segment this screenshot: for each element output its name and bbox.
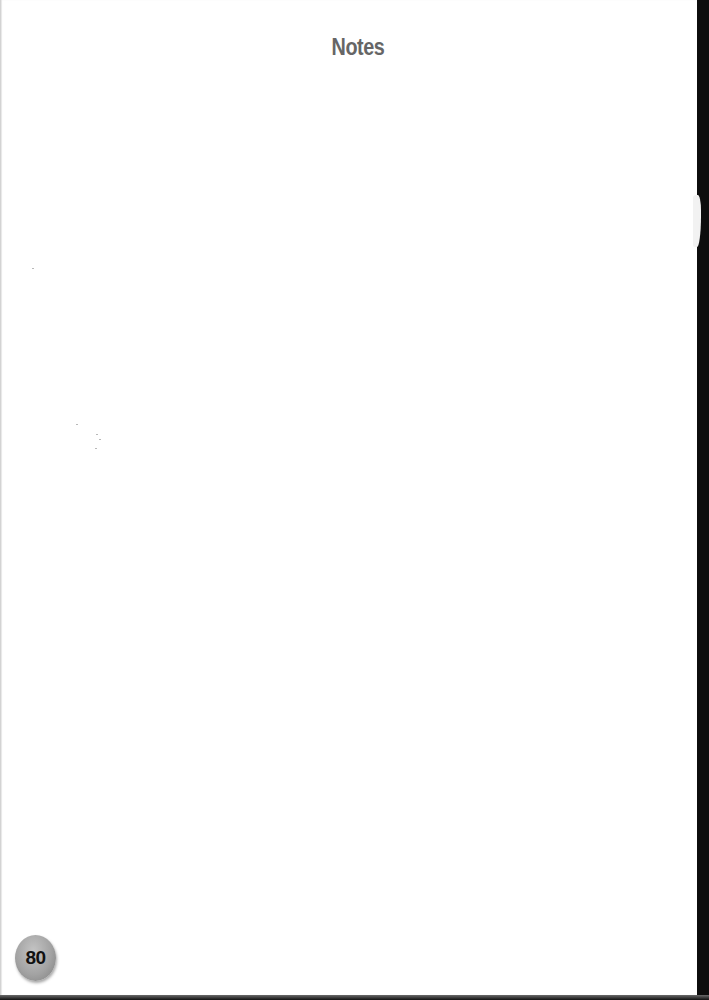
scan-speck [76, 424, 78, 425]
scan-right-border [697, 0, 709, 1000]
scan-speck [96, 434, 98, 435]
notes-page: Notes 80 [0, 0, 697, 995]
page-left-edge [0, 0, 2, 995]
page-title: Notes [50, 34, 666, 61]
scan-speck [99, 439, 101, 440]
page-number: 80 [25, 947, 45, 969]
page-number-badge: 80 [15, 935, 56, 981]
scan-bottom-border [0, 995, 709, 1000]
scan-speck [95, 448, 97, 449]
scan-speck [32, 268, 34, 269]
